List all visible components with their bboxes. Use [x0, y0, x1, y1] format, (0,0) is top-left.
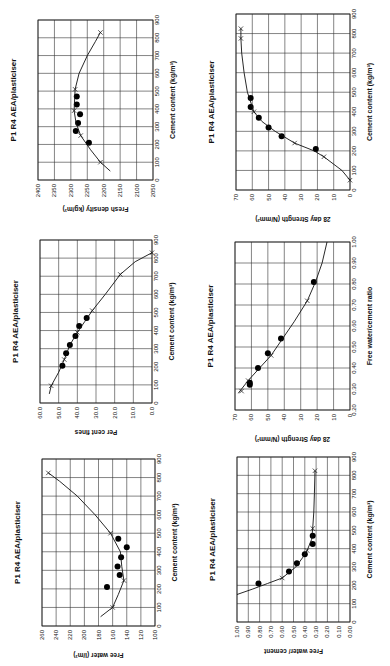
figure-page: 2050210021502200225023002350240001002003…	[0, 0, 390, 666]
x-tick-label: 500	[156, 528, 162, 539]
y-tick-label: 10.0	[130, 406, 136, 418]
x-tick-label: 0	[351, 620, 357, 624]
y-tick-label: 160	[110, 629, 116, 640]
x-tick-label: 300	[351, 561, 357, 572]
y-tick-label: 2200	[101, 183, 107, 197]
x-tick-label: 200	[351, 145, 357, 156]
x-tick-label: 600	[351, 67, 357, 78]
y-tick-label: 0.90	[245, 625, 251, 637]
y-tick-label: 0.40	[302, 625, 308, 637]
y-tick-label: 2100	[134, 183, 140, 197]
y-axis-label: 28 day Strength (N/mm²)	[255, 435, 330, 443]
chart-title: P1 R4 AEA/plasticiser	[206, 285, 215, 368]
x-tick-label: 500	[351, 525, 357, 536]
chart-fresh-density: 2050210021502200225023002350240001002003…	[9, 14, 177, 213]
x-tick-label: 900	[351, 451, 357, 462]
x-tick-label: 0.40	[351, 362, 357, 374]
y-axis-label: Fresh density (kg/m³)	[63, 205, 129, 213]
y-tick-label: 20	[314, 193, 320, 200]
y-tick-label: 60.0	[37, 406, 43, 418]
x-tick-label: 200	[154, 139, 160, 150]
y-tick-label: 240	[53, 629, 59, 640]
data-point	[115, 564, 121, 570]
x-tick-label: 700	[153, 271, 159, 282]
x-axis-label: Cement content (kg/m³)	[171, 503, 179, 581]
x-tick-label: 300	[154, 121, 160, 132]
y-axis-label: Free water (l/m³)	[73, 651, 123, 659]
x-tick-label: 800	[154, 32, 160, 43]
chart-free-water: 1001201401601802002202402600100200300400…	[13, 453, 179, 659]
y-tick-label: 2300	[68, 183, 74, 197]
y-tick-label: 2400	[35, 183, 41, 197]
x-tick-label: 100	[156, 602, 162, 613]
y-tick-label: 180	[96, 629, 102, 640]
y-tick-label: 0	[347, 193, 353, 197]
chart-water-cement: 0.000.100.200.300.400.500.600.700.800.90…	[208, 451, 374, 655]
chart-title: P1 R4 AEA/plasticiser	[11, 280, 20, 363]
x-tick-label: 0	[153, 401, 159, 405]
x-tick-label: 0.30	[351, 383, 357, 395]
y-tick-label: 220	[67, 629, 73, 640]
y-tick-label: 30	[298, 413, 304, 420]
data-point	[77, 111, 83, 117]
y-tick-label: 0.70	[268, 625, 274, 637]
x-tick-label: 300	[153, 343, 159, 354]
data-point	[104, 584, 110, 590]
x-axis-label: Cement content (kg/m³)	[169, 61, 177, 139]
x-tick-label: 200	[153, 361, 159, 372]
x-tick-label: 0.70	[351, 299, 357, 311]
x-tick-label: 400	[153, 325, 159, 336]
y-tick-label: 10	[331, 193, 337, 200]
x-tick-label: 800	[156, 472, 162, 483]
x-tick-label: 100	[351, 598, 357, 609]
y-tick-label: 260	[39, 629, 45, 640]
fitted-curve	[49, 253, 152, 394]
x-tick-label: 800	[153, 252, 159, 263]
charts-figure: 2050210021502200225023002350240001002003…	[0, 0, 390, 666]
data-point	[265, 350, 271, 356]
data-point	[117, 572, 123, 578]
x-tick-label: 800	[351, 470, 357, 481]
x-tick-label: 0.20	[351, 404, 357, 416]
y-tick-label: 120	[138, 629, 144, 640]
x-tick-label: 600	[351, 506, 357, 517]
y-tick-label: 60	[249, 193, 255, 200]
x-tick-label: 0.60	[351, 320, 357, 332]
x-tick-label: 100	[154, 157, 160, 168]
x-tick-label: 400	[351, 543, 357, 554]
data-point	[255, 581, 261, 587]
x-tick-label: 400	[154, 103, 160, 114]
y-tick-label: 50	[265, 413, 271, 420]
data-point	[124, 544, 130, 550]
y-axis-label: Per cent fines	[74, 429, 117, 436]
x-tick-label: 0.80	[351, 278, 357, 290]
y-tick-label: 70	[232, 413, 238, 420]
chart-title: P1 R4 AEA/plasticiser	[9, 59, 18, 142]
x-tick-label: 0.50	[351, 341, 357, 353]
x-tick-label: 700	[351, 47, 357, 58]
y-tick-label: 40	[281, 413, 287, 420]
y-tick-label: 1.00	[234, 625, 240, 637]
x-tick-label: 500	[351, 87, 357, 98]
x-axis-label: Cement content (kg/m³)	[366, 500, 374, 578]
x-tick-label: 300	[351, 126, 357, 137]
y-tick-label: 60	[248, 413, 254, 420]
x-tick-label: 100	[351, 165, 357, 176]
x-axis-label: Cement content (kg/m³)	[366, 63, 374, 141]
chart-strength-wc: 0102030405060700.200.300.400.500.600.700…	[206, 236, 373, 443]
x-tick-label: 200	[156, 583, 162, 594]
y-tick-label: 0.30	[313, 625, 319, 637]
fitted-curve	[237, 471, 315, 595]
y-tick-label: 2150	[117, 183, 123, 197]
x-tick-label: 900	[156, 453, 162, 464]
x-tick-label: 600	[154, 68, 160, 79]
chart-title: P1 R4 AEA/plasticiser	[208, 498, 217, 581]
x-axis-label: Free water/cement ratio	[366, 287, 373, 366]
y-tick-label: 10	[331, 413, 337, 420]
y-tick-label: 20	[314, 413, 320, 420]
data-point	[310, 533, 316, 539]
y-tick-label: 2050	[150, 183, 156, 197]
x-tick-label: 400	[351, 106, 357, 117]
x-tick-label: 600	[156, 509, 162, 520]
y-tick-label: 2250	[84, 183, 90, 197]
